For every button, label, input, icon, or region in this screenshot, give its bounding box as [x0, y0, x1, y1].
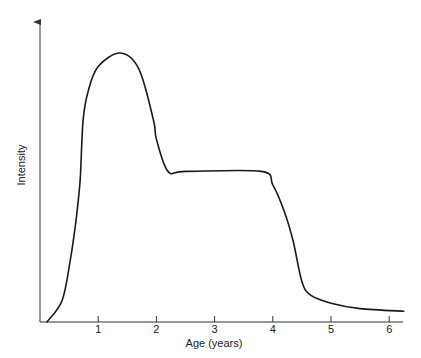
x-tick-label: 1 [95, 323, 101, 335]
x-tick-label: 3 [212, 323, 218, 335]
x-axis-label: Age (years) [186, 337, 243, 349]
x-tick-label: 2 [153, 323, 159, 335]
intensity-curve [47, 53, 404, 322]
chart-canvas: 123456 Age (years) Intensity [0, 0, 421, 358]
x-tick-label: 6 [386, 323, 392, 335]
x-tick-label: 5 [328, 323, 334, 335]
x-ticks: 123456 [95, 316, 392, 335]
y-axis-label: Intensity [15, 144, 27, 185]
x-tick-label: 4 [270, 323, 276, 335]
